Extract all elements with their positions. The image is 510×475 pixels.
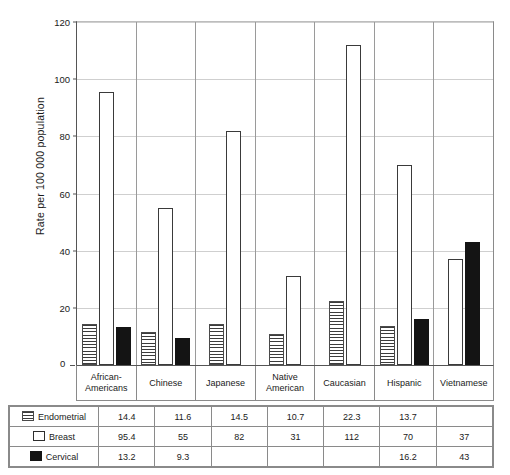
bar-group-chinese	[137, 22, 197, 365]
bar-group-african-americans	[77, 22, 137, 365]
table-cell-endometrial-japanese: 14.5	[211, 407, 267, 427]
y-tick-label-80: 80	[59, 131, 70, 142]
table-cell-breast-chinese: 55	[155, 427, 211, 447]
legend-label-endometrial: Endometrial	[38, 412, 86, 422]
bar-african-americans-cervical	[116, 327, 131, 365]
bar-japanese-endometrial	[209, 324, 224, 365]
legend-cell-cervical: Cervical	[10, 447, 99, 467]
category-axis-strip: African-AmericansChineseJapaneseNative A…	[76, 365, 494, 401]
table-row-endometrial: Endometrial14.411.614.510.722.313.7	[10, 407, 493, 427]
bar-group-caucasian	[315, 22, 375, 365]
bar-groups-container	[77, 22, 493, 365]
y-tick-label-60: 60	[59, 188, 70, 199]
category-label-caucasian: Caucasian	[315, 366, 375, 400]
category-label-african-americans: African-Americans	[77, 366, 137, 400]
bar-chinese-breast	[158, 208, 173, 365]
table-cell-endometrial-caucasian: 22.3	[324, 407, 380, 427]
y-axis-zero-label: 0	[60, 358, 65, 369]
bar-group-vietnamese	[434, 22, 493, 365]
y-tick-label-100: 100	[54, 74, 70, 85]
data-table-grid: Endometrial14.411.614.510.722.313.7Breas…	[9, 406, 493, 467]
legend-swatch-endometrial-icon	[22, 411, 34, 421]
bar-caucasian-breast	[346, 45, 361, 365]
table-cell-cervical-african-americans: 13.2	[99, 447, 155, 467]
bar-hispanic-cervical	[414, 319, 429, 365]
bar-hispanic-breast	[397, 165, 412, 365]
bar-african-americans-endometrial	[82, 324, 97, 365]
table-cell-cervical-vietnamese: 43	[436, 447, 492, 467]
category-label-hispanic: Hispanic	[375, 366, 435, 400]
legend-swatch-cervical-icon	[30, 451, 42, 461]
table-cell-cervical-chinese: 9.3	[155, 447, 211, 467]
legend-cell-breast: Breast	[10, 427, 99, 447]
y-tick-label-120: 120	[54, 17, 70, 28]
table-cell-breast-native-american: 31	[267, 427, 323, 447]
bar-vietnamese-cervical	[465, 242, 480, 365]
category-label-native-american: Native American	[256, 366, 316, 400]
bar-caucasian-endometrial	[329, 301, 344, 365]
plot-area: 20406080100120	[76, 21, 494, 365]
legend-label-breast: Breast	[49, 432, 75, 442]
y-tick-label-20: 20	[59, 302, 70, 313]
table-cell-endometrial-chinese: 11.6	[155, 407, 211, 427]
table-cell-endometrial-native-american: 10.7	[267, 407, 323, 427]
bar-hispanic-endometrial	[380, 326, 395, 365]
bar-group-hispanic	[375, 22, 435, 365]
table-cell-cervical-caucasian	[324, 447, 380, 467]
table-cell-breast-african-americans: 95.4	[99, 427, 155, 447]
table-cell-breast-caucasian: 112	[324, 427, 380, 447]
bar-chinese-cervical	[175, 338, 190, 365]
legend-swatch-breast-icon	[33, 431, 45, 441]
y-axis-title: Rate per 100 000 population	[34, 16, 46, 316]
legend-cell-endometrial: Endometrial	[10, 407, 99, 427]
bar-african-americans-breast	[99, 92, 114, 365]
table-cell-cervical-japanese	[211, 447, 267, 467]
bar-japanese-breast	[226, 131, 241, 365]
bar-chinese-endometrial	[141, 332, 156, 365]
table-cell-breast-hispanic: 70	[380, 427, 436, 447]
table-row-breast: Breast95.45582311127037	[10, 427, 493, 447]
cancer-incidence-bar-chart-figure: Rate per 100 000 population 204060801001…	[0, 0, 510, 475]
bar-group-native-american	[256, 22, 316, 365]
table-row-cervical: Cervical13.29.316.243	[10, 447, 493, 467]
data-table: Endometrial14.411.614.510.722.313.7Breas…	[8, 405, 494, 468]
category-label-japanese: Japanese	[196, 366, 256, 400]
bar-native-american-endometrial	[269, 334, 284, 365]
table-cell-breast-vietnamese: 37	[436, 427, 492, 447]
table-cell-endometrial-vietnamese	[436, 407, 492, 427]
table-cell-endometrial-african-americans: 14.4	[99, 407, 155, 427]
table-cell-cervical-native-american	[267, 447, 323, 467]
table-cell-endometrial-hispanic: 13.7	[380, 407, 436, 427]
table-cell-breast-japanese: 82	[211, 427, 267, 447]
y-axis-zero-tick	[70, 365, 75, 366]
y-tick-label-40: 40	[59, 245, 70, 256]
category-label-vietnamese: Vietnamese	[434, 366, 493, 400]
bar-native-american-breast	[286, 276, 301, 365]
category-label-chinese: Chinese	[137, 366, 197, 400]
bar-vietnamese-breast	[448, 259, 463, 365]
bar-group-japanese	[196, 22, 256, 365]
legend-label-cervical: Cervical	[46, 452, 79, 462]
table-cell-cervical-hispanic: 16.2	[380, 447, 436, 467]
